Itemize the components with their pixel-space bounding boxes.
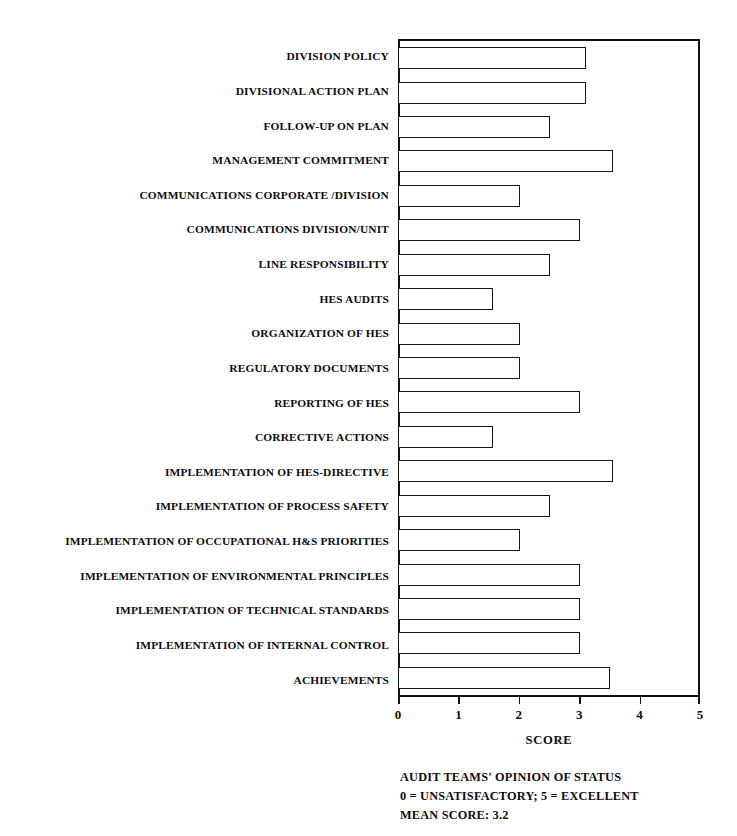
x-axis-title: SCORE — [398, 733, 700, 748]
category-row: REPORTING OF HES — [0, 385, 398, 420]
bar — [399, 495, 550, 517]
category-label: IMPLEMENTATION OF ENVIRONMENTAL PRINCIPL… — [80, 570, 389, 582]
bar — [399, 82, 586, 104]
category-label: IMPLEMENTATION OF OCCUPATIONAL H&S PRIOR… — [65, 535, 389, 547]
bar-slot — [400, 282, 698, 316]
category-label: HES AUDITS — [319, 293, 389, 305]
category-row: IMPLEMENTATION OF ENVIRONMENTAL PRINCIPL… — [0, 558, 398, 593]
category-label: REPORTING OF HES — [274, 397, 389, 409]
bar — [399, 323, 520, 345]
bar-slot — [400, 420, 698, 454]
category-label-column: DIVISION POLICYDIVISIONAL ACTION PLANFOL… — [0, 39, 398, 697]
bar-slot — [400, 661, 698, 695]
category-row: IMPLEMENTATION OF PROCESS SAFETY — [0, 489, 398, 524]
bar — [399, 219, 580, 241]
caption-line: 0 = UNSATISFACTORY; 5 = EXCELLENT — [400, 787, 730, 806]
bar-slot — [400, 626, 698, 660]
bar — [399, 47, 586, 69]
category-row: REGULATORY DOCUMENTS — [0, 351, 398, 386]
category-label: IMPLEMENTATION OF PROCESS SAFETY — [156, 500, 389, 512]
category-label: DIVISIONAL ACTION PLAN — [236, 85, 389, 97]
category-row: MANAGEMENT COMMITMENT — [0, 143, 398, 178]
x-axis-tick-label: 3 — [576, 707, 583, 723]
x-axis-tick-label: 1 — [455, 707, 462, 723]
x-axis: 012345 — [398, 697, 700, 698]
category-row: IMPLEMENTATION OF TECHNICAL STANDARDS — [0, 593, 398, 628]
caption-line: AUDIT TEAMS' OPINION OF STATUS — [400, 768, 730, 787]
bar-slot — [400, 41, 698, 75]
bar-slot — [400, 385, 698, 419]
bar-slot — [400, 557, 698, 591]
x-axis-tick — [458, 697, 460, 704]
bar — [399, 667, 610, 689]
bar-slot — [400, 488, 698, 522]
category-row: COMMUNICATIONS DIVISION/UNIT — [0, 212, 398, 247]
bar-slot — [400, 454, 698, 488]
category-label: CORRECTIVE ACTIONS — [255, 431, 389, 443]
category-label: DIVISION POLICY — [286, 50, 389, 62]
category-label: LINE RESPONSIBILITY — [259, 258, 389, 270]
category-row: ACHIEVEMENTS — [0, 662, 398, 697]
x-axis-tick-label: 2 — [516, 707, 523, 723]
category-label: COMMUNICATIONS CORPORATE /DIVISION — [139, 189, 389, 201]
category-row: CORRECTIVE ACTIONS — [0, 420, 398, 455]
x-axis-tick — [698, 697, 700, 704]
bar-series — [400, 41, 698, 695]
bar — [399, 598, 580, 620]
bar — [399, 150, 613, 172]
bar-slot — [400, 592, 698, 626]
bar — [399, 357, 520, 379]
category-row: IMPLEMENTATION OF HES-DIRECTIVE — [0, 455, 398, 490]
x-axis-tick-label: 5 — [697, 707, 704, 723]
category-label: IMPLEMENTATION OF INTERNAL CONTROL — [136, 639, 389, 651]
bar — [399, 288, 493, 310]
category-row: IMPLEMENTATION OF OCCUPATIONAL H&S PRIOR… — [0, 524, 398, 559]
bar — [399, 564, 580, 586]
bar-slot — [400, 523, 698, 557]
bar-slot — [400, 316, 698, 350]
category-label: FOLLOW-UP ON PLAN — [263, 120, 389, 132]
bar-slot — [400, 351, 698, 385]
category-label: IMPLEMENTATION OF HES-DIRECTIVE — [165, 466, 389, 478]
bar — [399, 632, 580, 654]
category-row: DIVISION POLICY — [0, 39, 398, 74]
bar — [399, 185, 520, 207]
caption-line: MEAN SCORE: 3.2 — [400, 806, 730, 825]
x-axis-tick — [640, 697, 642, 704]
category-row: COMMUNICATIONS CORPORATE /DIVISION — [0, 178, 398, 213]
x-axis-tick-label: 0 — [395, 707, 402, 723]
bar — [399, 460, 613, 482]
category-row: LINE RESPONSIBILITY — [0, 247, 398, 282]
bar-slot — [400, 75, 698, 109]
category-label: IMPLEMENTATION OF TECHNICAL STANDARDS — [115, 604, 389, 616]
bar — [399, 529, 520, 551]
category-label: MANAGEMENT COMMITMENT — [212, 154, 389, 166]
category-row: IMPLEMENTATION OF INTERNAL CONTROL — [0, 628, 398, 663]
category-row: FOLLOW-UP ON PLAN — [0, 108, 398, 143]
category-label: COMMUNICATIONS DIVISION/UNIT — [187, 223, 389, 235]
bar — [399, 391, 580, 413]
x-axis-tick — [398, 697, 400, 704]
category-row: ORGANIZATION OF HES — [0, 316, 398, 351]
category-label: REGULATORY DOCUMENTS — [229, 362, 389, 374]
bar-slot — [400, 213, 698, 247]
chart-caption: AUDIT TEAMS' OPINION OF STATUS0 = UNSATI… — [400, 768, 730, 825]
bar-slot — [400, 144, 698, 178]
bar — [399, 254, 550, 276]
plot-area — [398, 39, 700, 697]
bar — [399, 426, 493, 448]
x-axis-tick — [579, 697, 581, 704]
category-label: ORGANIZATION OF HES — [251, 327, 389, 339]
category-row: DIVISIONAL ACTION PLAN — [0, 74, 398, 109]
bar-slot — [400, 179, 698, 213]
category-label: ACHIEVEMENTS — [294, 674, 389, 686]
category-row: HES AUDITS — [0, 281, 398, 316]
bar-slot — [400, 248, 698, 282]
horizontal-bar-chart: DIVISION POLICYDIVISIONAL ACTION PLANFOL… — [0, 0, 737, 836]
x-axis-tick-label: 4 — [636, 707, 643, 723]
bar — [399, 116, 550, 138]
x-axis-tick — [519, 697, 521, 704]
bar-slot — [400, 110, 698, 144]
